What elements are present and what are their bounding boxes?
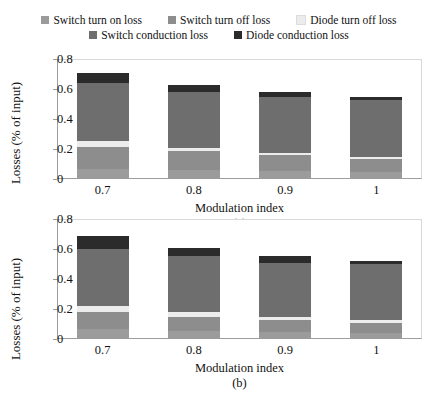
legend-item-diode-turn-off: Diode turn off loss (296, 14, 396, 26)
bar-segment (77, 83, 129, 141)
x-axis-tick-label: 1 (373, 184, 379, 197)
bar-segment (259, 263, 311, 317)
y-axis-title: Losses (% of input) (8, 81, 24, 183)
bar-a-0.8 (168, 85, 220, 180)
bar-segment (168, 92, 220, 148)
bar-segment (77, 169, 129, 180)
chart-panel-a: Losses (% of input) 00.20.40.60.80.70.80… (0, 55, 438, 210)
bar-segment (77, 147, 129, 169)
bar-segment (168, 256, 220, 312)
x-axis-tick-label: 0.8 (186, 344, 202, 357)
bar-a-0.7 (77, 73, 129, 180)
bars-container-a: 00.20.40.60.80.70.80.91 (57, 59, 422, 179)
bar-segment (77, 312, 129, 329)
bar-segment (259, 97, 311, 153)
bar-segment (168, 248, 220, 256)
bar-segment (259, 155, 311, 171)
bar-segment (259, 171, 311, 179)
legend-label: Switch turn off loss (180, 14, 270, 26)
panel-letter-b: (b) (57, 376, 422, 391)
bar-segment (350, 172, 402, 180)
bar-segment (77, 73, 129, 84)
bar-segment (168, 170, 220, 179)
legend-swatch-diode_conduction-icon (234, 31, 242, 39)
chart-legend: Switch turn on loss Switch turn off loss… (0, 14, 438, 41)
legend-label: Diode turn off loss (310, 14, 396, 26)
legend-swatch-switch_turn_on-icon (41, 16, 49, 24)
plot-area-a: 00.20.40.60.80.70.80.91 Modulation index… (57, 59, 422, 179)
legend-item-switch-turn-off: Switch turn off loss (168, 14, 270, 26)
legend-item-switch-conduction: Switch conduction loss (89, 29, 208, 41)
plot-area-b: 00.20.40.60.80.70.80.91 Modulation index… (57, 219, 422, 339)
bar-segment (350, 159, 402, 172)
bar-segment (77, 329, 129, 339)
bar-segment (168, 85, 220, 93)
legend-item-switch-turn-on: Switch turn on loss (41, 14, 142, 26)
bar-segment (350, 264, 402, 320)
bar-segment (77, 249, 129, 306)
x-axis-tick-label: 1 (373, 344, 379, 357)
bar-segment (168, 317, 220, 331)
bar-segment (350, 100, 402, 157)
x-axis-tick-label: 0.9 (277, 344, 293, 357)
legend-item-diode-conduction: Diode conduction loss (234, 29, 349, 41)
bar-a-1 (350, 97, 402, 180)
legend-row-2: Switch conduction loss Diode conduction … (89, 29, 349, 41)
bar-segment (168, 331, 220, 339)
x-axis-title: Modulation index (57, 361, 422, 376)
x-axis-tick-label: 0.9 (277, 184, 293, 197)
legend-label: Switch conduction loss (101, 29, 208, 41)
legend-label: Diode conduction loss (246, 29, 349, 41)
bar-b-1 (350, 261, 402, 339)
chart-panel-b: Losses (% of input) 00.20.40.60.80.70.80… (0, 215, 438, 403)
legend-row-1: Switch turn on loss Switch turn off loss… (41, 14, 396, 26)
legend-label: Switch turn on loss (53, 14, 142, 26)
figure-root: Switch turn on loss Switch turn off loss… (0, 0, 438, 403)
bar-segment (168, 151, 220, 171)
legend-swatch-switch_conduction-icon (89, 31, 97, 39)
x-axis-tick-label: 0.7 (95, 344, 111, 357)
x-axis-tick-label: 0.7 (95, 184, 111, 197)
bar-segment (259, 320, 311, 333)
bar-b-0.9 (259, 256, 311, 339)
y-axis-title: Losses (% of input) (8, 258, 24, 360)
bar-segment (350, 323, 402, 334)
x-axis-tick-label: 0.8 (186, 184, 202, 197)
bar-segment (259, 256, 311, 263)
bar-b-0.8 (168, 248, 220, 340)
x-axis-title: Modulation index (57, 201, 422, 216)
bar-a-0.9 (259, 92, 311, 179)
bar-segment (350, 333, 402, 339)
bar-segment (259, 332, 311, 339)
legend-swatch-diode_turn_off-icon (296, 15, 306, 25)
bars-container-b: 00.20.40.60.80.70.80.91 (57, 219, 422, 339)
bar-b-0.7 (77, 236, 129, 340)
bar-segment (77, 236, 129, 250)
legend-swatch-switch_turn_off-icon (168, 16, 176, 24)
